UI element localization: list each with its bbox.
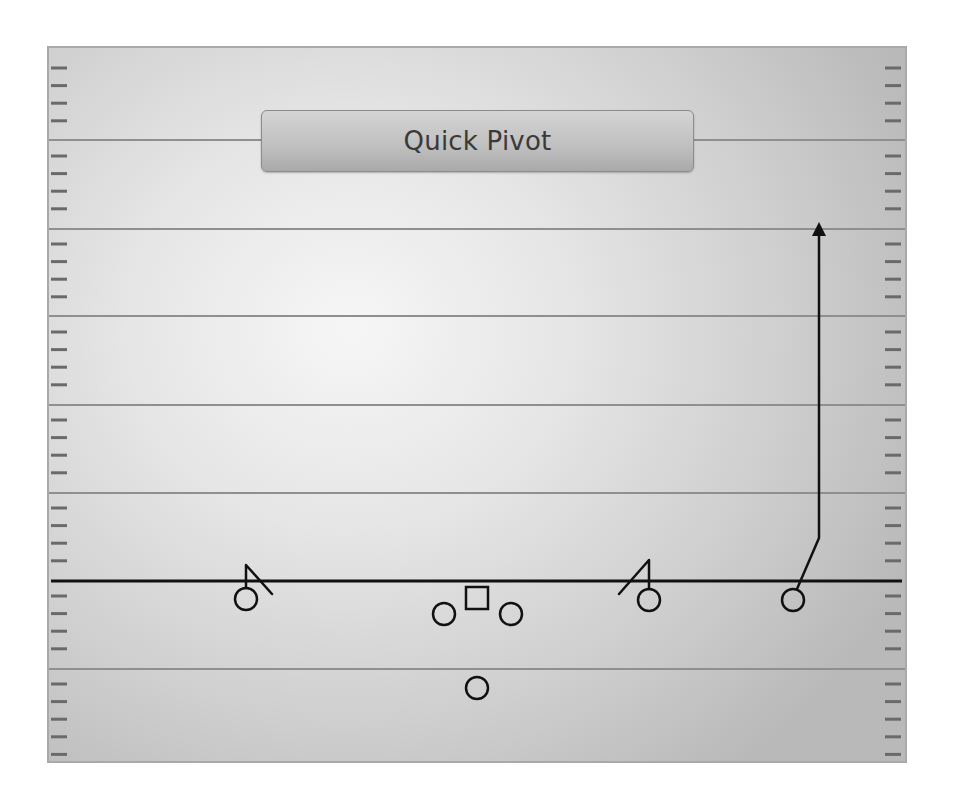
players [235, 587, 804, 699]
left-receiver-marker [235, 588, 257, 610]
wide-receiver-marker [782, 589, 804, 611]
wide-receiver-route [797, 234, 819, 589]
left-guard-marker [433, 603, 455, 625]
slot-receiver-marker [638, 589, 660, 611]
running-back-marker [466, 677, 488, 699]
routes [246, 222, 826, 594]
yard-lines [49, 140, 905, 669]
play-title: Quick Pivot [404, 126, 552, 156]
center-marker [466, 587, 488, 609]
play-title-banner: Quick Pivot [261, 110, 694, 172]
right-guard-marker [500, 603, 522, 625]
